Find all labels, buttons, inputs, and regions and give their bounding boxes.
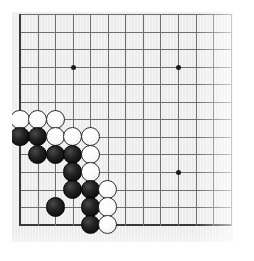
white-stone[interactable] [98,197,117,216]
black-stone[interactable] [10,127,29,146]
black-stone[interactable] [63,162,82,181]
grid-line-vertical [125,14,126,226]
star-point [71,65,76,70]
black-stone[interactable] [28,145,47,164]
white-stone[interactable] [28,110,47,129]
black-stone[interactable] [81,197,100,216]
star-point [176,170,181,175]
board-surface [0,0,254,261]
go-board-diagram [0,0,254,261]
white-stone[interactable] [10,110,29,129]
black-stone[interactable] [46,145,65,164]
white-stone[interactable] [46,110,65,129]
black-stone[interactable] [81,180,100,199]
black-stone[interactable] [81,215,100,234]
white-stone[interactable] [81,145,100,164]
grid-line-vertical [178,14,179,226]
grid-line-vertical [160,14,161,226]
white-stone[interactable] [81,162,100,181]
star-point [176,65,181,70]
white-stone[interactable] [46,127,65,146]
grid-line-vertical [213,14,214,226]
grid-line-vertical [196,14,197,226]
black-stone[interactable] [46,197,65,216]
grid-line-vertical [231,14,232,226]
grid-line-vertical [143,14,144,226]
